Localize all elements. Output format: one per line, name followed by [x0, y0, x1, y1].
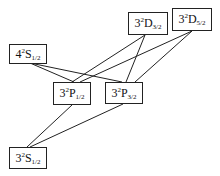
level-3p-1-2: 32P1/2 — [53, 82, 91, 105]
transition-3P32-3S12 — [30, 104, 123, 147]
level-label: 42S1/2 — [15, 47, 40, 62]
level-4s-1-2: 42S1/2 — [9, 44, 47, 64]
transition-3P12-3S12 — [27, 105, 72, 147]
level-3d-5-2: 32D5/2 — [172, 8, 212, 31]
transition-3D52-3P12 — [80, 31, 192, 82]
level-label: 32P3/2 — [111, 86, 136, 101]
level-3s-1-2: 32S1/2 — [9, 147, 47, 169]
level-label: 32S1/2 — [15, 151, 40, 166]
level-label: 32D3/2 — [134, 16, 161, 31]
level-label: 32D5/2 — [178, 12, 205, 27]
transition-3D32-3P12 — [72, 35, 145, 82]
level-label: 32P1/2 — [59, 86, 84, 101]
transition-4S12-3P12 — [30, 63, 74, 82]
level-3d-3-2: 32D3/2 — [128, 12, 168, 35]
level-3p-3-2: 32P3/2 — [105, 82, 143, 104]
